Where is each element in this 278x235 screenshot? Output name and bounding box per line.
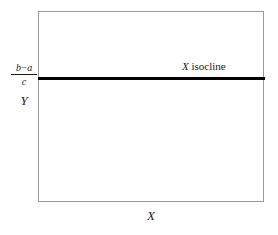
x-isocline-label: X isocline — [182, 60, 226, 72]
isocline-variable: X — [182, 60, 189, 72]
x-axis-title: X — [38, 208, 264, 223]
y-axis-title: Y — [11, 93, 37, 108]
isocline-figure: X isocline b−a c Y X — [0, 0, 278, 235]
x-isocline-line — [38, 77, 265, 80]
isocline-word: isocline — [189, 60, 226, 72]
fraction-denominator: c — [11, 76, 37, 87]
y-axis-tick-label: b−a c — [11, 62, 37, 87]
plot-frame — [38, 11, 264, 202]
fraction-numerator: b−a — [11, 62, 37, 73]
fraction-bar — [11, 74, 37, 75]
